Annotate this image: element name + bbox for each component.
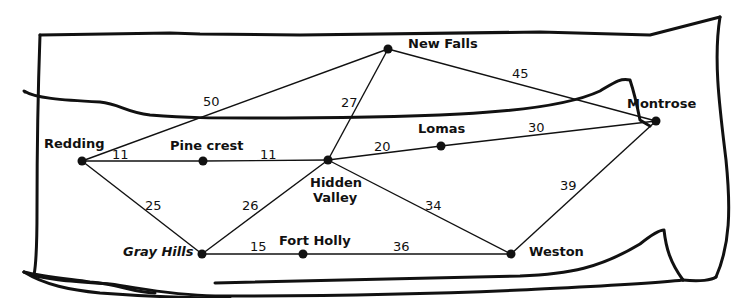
- edges-layer: [82, 49, 656, 254]
- edge-weight-label: 39: [560, 178, 577, 193]
- edge-montrose-weston: [511, 121, 656, 254]
- edge-weight-label: 34: [425, 198, 442, 213]
- edge-weight-label: 11: [260, 147, 277, 162]
- edge-weight-label: 20: [374, 139, 391, 154]
- node-label-grayhills: Gray Hills: [123, 244, 194, 259]
- node-newfalls-dot: [384, 45, 393, 54]
- edge-weight-label: 11: [112, 147, 129, 162]
- nodes-layer: [78, 45, 661, 259]
- node-label-pinecrest: Pine crest: [170, 138, 243, 153]
- node-label-hiddenvalley: Hidden: [310, 175, 362, 190]
- road-map-diagram: 50111125272030452634391536 ReddingPine c…: [0, 0, 734, 298]
- node-fortholly-dot: [299, 250, 308, 259]
- node-hiddenvalley-dot: [324, 156, 333, 165]
- edge-weight-label: 26: [242, 198, 259, 213]
- edge-weight-label: 30: [528, 120, 545, 135]
- node-grayhills-dot: [198, 250, 207, 259]
- edge-weight-label: 50: [203, 94, 220, 109]
- edge-weights-layer: 50111125272030452634391536: [112, 66, 577, 254]
- edge-redding-grayhills: [82, 161, 202, 254]
- node-weston-dot: [507, 250, 516, 259]
- node-label-weston: Weston: [529, 244, 584, 259]
- edge-weight-label: 15: [250, 239, 267, 254]
- edge-lomas-montrose: [441, 121, 656, 146]
- edge-weight-label: 25: [145, 198, 162, 213]
- node-label-hiddenvalley-line2: Valley: [313, 190, 358, 205]
- edge-weight-label: 27: [341, 95, 358, 110]
- node-labels-layer: ReddingPine crestHiddenValleyNew FallsLo…: [44, 36, 696, 259]
- node-redding-dot: [78, 157, 87, 166]
- edge-weight-label: 36: [393, 239, 410, 254]
- edge-weight-label: 45: [512, 66, 529, 81]
- node-label-montrose: Montrose: [627, 96, 696, 111]
- scroll-curl: [24, 230, 716, 298]
- node-lomas-dot: [437, 142, 446, 151]
- node-montrose-dot: [652, 117, 661, 126]
- node-label-redding: Redding: [44, 136, 104, 151]
- node-label-newfalls: New Falls: [408, 36, 478, 51]
- node-label-fortholly: Fort Holly: [279, 233, 351, 248]
- node-label-lomas: Lomas: [418, 121, 466, 136]
- node-pinecrest-dot: [199, 157, 208, 166]
